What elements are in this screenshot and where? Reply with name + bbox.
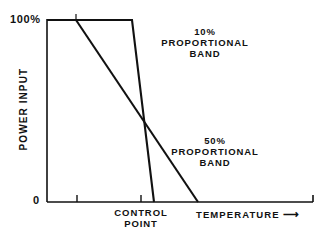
right-arrow-icon: ⟶ xyxy=(283,210,300,219)
x-axis-title: TEMPERATURE⟶ xyxy=(196,209,300,220)
x-axis-title-text: TEMPERATURE xyxy=(196,209,280,220)
narrow-band-line1: PROPORTIONAL xyxy=(161,37,248,48)
wide-band-annotation: 50% PROPORTIONAL BAND xyxy=(165,135,265,168)
proportional-band-chart: 100% 0 POWER INPUT CONTROL POINT TEMPERA… xyxy=(0,0,326,241)
narrow-band-percent: 10% xyxy=(194,26,216,37)
y-axis-min-label: 0 xyxy=(33,194,40,206)
y-axis-max-label: 100% xyxy=(10,13,41,25)
y-axis-title: POWER INPUT xyxy=(18,71,29,151)
wide-band-line2: BAND xyxy=(199,157,230,168)
control-point-label: CONTROL POINT xyxy=(101,207,181,229)
wide-band-line1: PROPORTIONAL xyxy=(171,146,258,157)
narrow-band-annotation: 10% PROPORTIONAL BAND xyxy=(155,26,255,59)
narrow-band-line2: BAND xyxy=(189,48,220,59)
wide-band-percent: 50% xyxy=(204,135,226,146)
